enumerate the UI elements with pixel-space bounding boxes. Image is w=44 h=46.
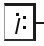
colon-upper-dot-icon <box>23 16 26 19</box>
node-label-glyphs <box>5 6 33 39</box>
letter-i-dot-icon <box>16 13 19 16</box>
connector-line-right[interactable] <box>36 22 44 24</box>
node-box[interactable]: i: <box>4 3 36 41</box>
colon-lower-dot-icon <box>23 26 26 29</box>
letter-i-stem-icon <box>15 18 20 34</box>
diagram-canvas: i: <box>0 0 44 46</box>
